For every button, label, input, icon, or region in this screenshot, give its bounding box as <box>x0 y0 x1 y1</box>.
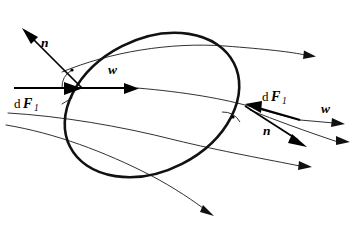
force-left-d-label: d <box>14 96 21 111</box>
normal-right-label: n <box>263 123 271 138</box>
normal-left-label: n <box>41 35 49 50</box>
velocity-right-label: w <box>321 101 331 116</box>
force-right-subscript-label: 1 <box>282 96 287 106</box>
force-right-d-label: d <box>262 89 269 104</box>
force-left-subscript-label: 1 <box>34 103 39 113</box>
diagram-canvas: n w d F 1 d F 1 n <box>0 0 364 225</box>
force-left-F-label: F <box>22 96 33 111</box>
right-angle-dot-right <box>231 115 234 118</box>
velocity-left-label: w <box>108 62 118 77</box>
flow-diagram-svg: n w d F 1 d F 1 n <box>0 0 364 225</box>
force-right-F-label: F <box>270 89 281 104</box>
right-angle-dot-left <box>70 68 73 71</box>
